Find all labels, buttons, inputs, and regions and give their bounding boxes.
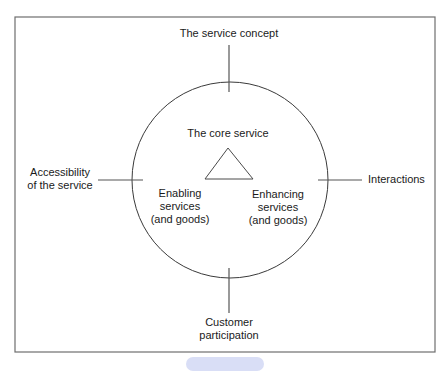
customer-participation-line2: participation bbox=[199, 329, 258, 341]
accessibility-label-line1: Accessibility bbox=[30, 166, 90, 178]
core-service-triangle bbox=[205, 148, 253, 179]
core-service-label: The core service bbox=[187, 127, 268, 139]
bottom-partial-button[interactable] bbox=[186, 357, 264, 371]
accessibility-label-line2: of the service bbox=[27, 179, 92, 191]
service-concept-label: The service concept bbox=[180, 27, 278, 39]
interactions-label: Interactions bbox=[368, 173, 425, 185]
enhancing-services-line3: (and goods) bbox=[249, 214, 308, 226]
enabling-services-line3: (and goods) bbox=[151, 213, 210, 225]
service-circle bbox=[132, 82, 328, 278]
customer-participation-line1: Customer bbox=[205, 316, 253, 328]
enhancing-services-line2: services bbox=[258, 201, 299, 213]
enabling-services-line1: Enabling bbox=[159, 187, 202, 199]
enhancing-services-line1: Enhancing bbox=[252, 188, 304, 200]
enabling-services-line2: services bbox=[160, 200, 201, 212]
